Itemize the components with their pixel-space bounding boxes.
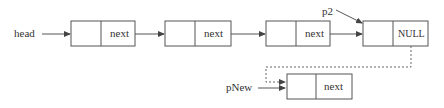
node-3-pointer: next: [305, 27, 324, 39]
node-4: NULL: [363, 21, 428, 46]
new-node-pointer: next: [324, 80, 343, 92]
pnew-label: pNew: [226, 81, 252, 93]
p2-arrow: [336, 10, 362, 23]
node-2: next: [165, 21, 231, 46]
head-label: head: [14, 27, 35, 39]
node-1: next: [71, 21, 135, 46]
node-4-pointer: NULL: [398, 28, 425, 39]
linked-list-diagram: head next next next p2 NULL pNew next: [0, 0, 444, 108]
p2-label: p2: [322, 5, 333, 17]
node-2-pointer: next: [204, 27, 223, 39]
node-1-pointer: next: [110, 27, 129, 39]
new-node: next: [287, 74, 352, 99]
node-3: next: [266, 21, 330, 46]
